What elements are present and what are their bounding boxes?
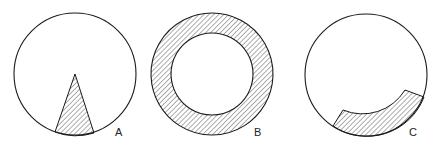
label-b: B — [254, 126, 261, 138]
figure-b: B — [151, 13, 273, 138]
figure-a: A — [14, 13, 136, 138]
ring-b — [151, 13, 273, 135]
diagram-canvas: A B C — [0, 0, 441, 146]
label-c: C — [409, 126, 417, 138]
figure-c: C — [305, 14, 427, 138]
label-a: A — [115, 126, 123, 138]
wedge-a — [55, 74, 94, 136]
